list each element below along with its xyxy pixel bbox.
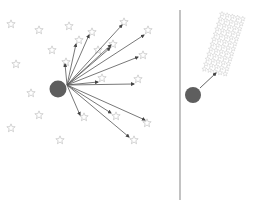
cluster-star-icon — [239, 21, 244, 26]
cluster-star-icon — [228, 56, 233, 61]
cluster-star-icon — [214, 48, 219, 53]
cluster-star-icon — [230, 14, 235, 19]
cluster-star-icon — [216, 59, 221, 64]
cluster-star-icon — [224, 34, 229, 39]
cluster-star-icon — [226, 61, 231, 66]
star-icon — [7, 20, 15, 28]
star-icon — [35, 111, 43, 119]
cluster-star-icon — [202, 67, 207, 72]
star-icon — [130, 136, 138, 144]
cluster-star-icon — [213, 32, 218, 37]
left-star-field — [7, 18, 152, 144]
cluster-star-icon — [204, 62, 209, 67]
arrow — [67, 85, 145, 120]
cluster-star-icon — [235, 15, 240, 20]
star-icon — [27, 89, 35, 97]
cluster-star-icon — [227, 24, 232, 29]
cluster-star-icon — [221, 60, 226, 65]
cluster-star-icon — [218, 17, 223, 22]
cluster-star-icon — [232, 25, 237, 30]
star-icon — [35, 26, 43, 34]
cluster-star-icon — [231, 46, 236, 51]
star-icon — [120, 18, 128, 26]
right-star-cluster — [202, 12, 245, 77]
star-icon — [56, 136, 64, 144]
left-source-node — [50, 81, 67, 98]
cluster-star-icon — [216, 22, 221, 27]
star-icon — [48, 46, 56, 54]
star-icon — [80, 113, 88, 121]
cluster-star-icon — [214, 64, 219, 69]
cluster-star-icon — [234, 20, 239, 25]
cluster-star-icon — [230, 30, 235, 35]
cluster-star-icon — [217, 38, 222, 43]
cluster-star-icon — [222, 23, 227, 28]
cluster-star-icon — [209, 63, 214, 68]
star-icon — [112, 112, 120, 120]
right-source-node — [185, 87, 201, 103]
cluster-star-icon — [220, 28, 225, 33]
cluster-star-icon — [210, 42, 215, 47]
star-icon — [134, 75, 142, 83]
star-icon — [7, 124, 15, 132]
cluster-star-icon — [226, 45, 231, 50]
star-icon — [12, 60, 20, 68]
star-icon — [139, 51, 147, 59]
cluster-star-icon — [237, 26, 242, 31]
cluster-star-icon — [225, 13, 230, 18]
cluster-star-icon — [208, 47, 213, 52]
cluster-star-icon — [207, 68, 212, 73]
star-icon — [144, 26, 152, 34]
cluster-star-icon — [227, 40, 232, 45]
cluster-star-icon — [236, 31, 241, 36]
cluster-star-icon — [232, 41, 237, 46]
cluster-star-icon — [222, 39, 227, 44]
arrow — [67, 85, 111, 113]
cluster-star-icon — [225, 29, 230, 34]
cluster-star-icon — [234, 36, 239, 41]
cluster-star-icon — [228, 19, 233, 24]
cluster-star-icon — [240, 16, 245, 21]
cluster-star-icon — [222, 55, 227, 60]
cluster-star-icon — [212, 53, 217, 58]
cluster-star-icon — [217, 54, 222, 59]
cluster-star-icon — [223, 71, 228, 76]
cluster-star-icon — [212, 37, 217, 42]
cluster-star-icon — [218, 70, 223, 75]
cluster-star-icon — [224, 50, 229, 55]
star-icon — [88, 28, 96, 36]
cluster-star-icon — [224, 66, 229, 71]
cluster-star-icon — [215, 43, 220, 48]
star-icon — [65, 22, 73, 30]
cluster-star-icon — [219, 49, 224, 54]
cluster-star-icon — [219, 65, 224, 70]
star-icon — [62, 58, 70, 66]
cluster-star-icon — [215, 27, 220, 32]
cluster-star-icon — [220, 44, 225, 49]
arrow — [65, 64, 67, 85]
cluster-star-icon — [210, 58, 215, 63]
arrow — [67, 85, 129, 137]
star-icon — [98, 74, 106, 82]
cluster-star-icon — [207, 52, 212, 57]
star-icon — [94, 46, 102, 54]
cluster-star-icon — [205, 57, 210, 62]
arrow — [67, 45, 111, 85]
cluster-star-icon — [220, 12, 225, 17]
cluster-star-icon — [223, 18, 228, 23]
cluster-star-icon — [212, 69, 217, 74]
right-aggregate-arrow — [200, 73, 216, 88]
diagram-canvas — [0, 0, 253, 206]
cluster-star-icon — [229, 51, 234, 56]
cluster-star-icon — [218, 33, 223, 38]
star-icon — [75, 36, 83, 44]
cluster-star-icon — [229, 35, 234, 40]
star-icon — [109, 40, 117, 48]
